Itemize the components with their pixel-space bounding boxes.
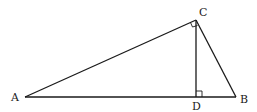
label-d: D: [192, 100, 201, 112]
label-c: C: [199, 6, 207, 19]
right-angle-mark-d: [196, 91, 202, 97]
segment-ac: [25, 20, 196, 97]
label-a: A: [10, 91, 20, 104]
triangle-diagram: A B C D: [0, 0, 257, 112]
segment-bc: [196, 20, 236, 97]
label-b: B: [240, 93, 248, 106]
